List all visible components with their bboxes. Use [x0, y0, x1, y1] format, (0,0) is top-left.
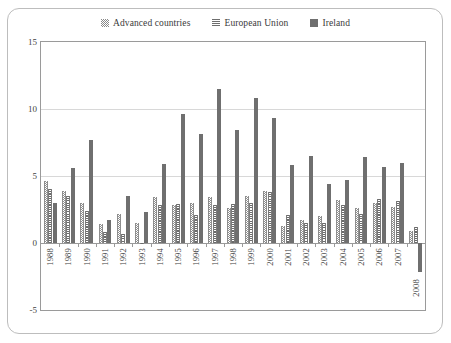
x-tick-mark-1988	[59, 243, 60, 247]
legend-item-european-union: European Union	[212, 18, 288, 28]
checkered-swatch-icon	[101, 19, 109, 27]
x-tick-mark-1999	[260, 243, 261, 247]
bar-ireland-2000	[272, 118, 276, 243]
bar-advanced-countries-1992	[117, 214, 121, 243]
bar-advanced-countries-2006	[373, 203, 377, 243]
bar-group-1989	[62, 42, 75, 310]
x-tick-label-1993: 1993	[137, 248, 147, 266]
bar-ireland-1995	[181, 114, 185, 243]
x-tick-label-2006: 2006	[374, 248, 384, 266]
legend-item-advanced-countries: Advanced countries	[101, 18, 191, 28]
x-tick-mark-1996	[206, 243, 207, 247]
bar-ireland-1997	[217, 89, 221, 243]
bar-european-union-2002	[304, 223, 308, 243]
x-tick-label-2004: 2004	[338, 248, 348, 266]
x-tick-mark-2006	[388, 243, 389, 247]
bar-european-union-1997	[213, 205, 217, 243]
x-tick-label-2000: 2000	[265, 248, 275, 266]
bar-advanced-countries-2008	[409, 231, 413, 243]
bar-european-union-1989	[66, 196, 70, 243]
bar-group-1999	[245, 42, 258, 310]
bar-group-1995	[172, 42, 185, 310]
x-tick-label-1995: 1995	[173, 248, 183, 266]
bar-ireland-1988	[53, 203, 57, 243]
x-tick-mark-2007	[407, 243, 408, 247]
chart-legend: Advanced countries European Union Irelan…	[0, 18, 451, 28]
bar-group-2004	[336, 42, 349, 310]
bar-european-union-2008	[414, 227, 418, 243]
bars-layer	[41, 42, 425, 310]
bar-advanced-countries-2004	[336, 200, 340, 243]
bar-ireland-1990	[89, 140, 93, 243]
bar-group-1993	[135, 42, 148, 310]
bar-ireland-2001	[290, 165, 294, 243]
bar-group-1991	[99, 42, 112, 310]
bar-ireland-1994	[162, 164, 166, 243]
bar-ireland-1993	[144, 212, 148, 243]
bar-advanced-countries-1999	[245, 196, 249, 243]
x-tick-label-1997: 1997	[210, 248, 220, 266]
bar-advanced-countries-1990	[80, 203, 84, 243]
x-tick-mark-1998	[242, 243, 243, 247]
bar-advanced-countries-1988	[44, 181, 48, 243]
x-tick-mark-2008	[425, 243, 426, 247]
bar-group-1992	[117, 42, 130, 310]
y-tick-label-0: 0	[9, 238, 37, 248]
bar-ireland-2008	[418, 243, 422, 272]
bar-ireland-2005	[363, 157, 367, 243]
x-tick-mark-2005	[370, 243, 371, 247]
bar-european-union-2007	[396, 201, 400, 243]
bar-advanced-countries-1995	[172, 205, 176, 243]
x-tick-label-2008: 2008	[411, 279, 421, 297]
bar-european-union-1991	[103, 232, 107, 243]
bar-advanced-countries-1993	[135, 223, 139, 243]
bar-group-1994	[153, 42, 166, 310]
bar-ireland-2003	[327, 184, 331, 243]
legend-item-ireland: Ireland	[310, 18, 350, 28]
striped-swatch-icon	[212, 19, 220, 27]
bar-ireland-1992	[126, 196, 130, 243]
bar-advanced-countries-1994	[153, 197, 157, 243]
bar-advanced-countries-2005	[355, 208, 359, 243]
bar-ireland-1989	[71, 168, 75, 243]
y-tick-label-5: 5	[9, 171, 37, 181]
legend-label-advanced-countries: Advanced countries	[113, 18, 191, 28]
x-tick-label-1988: 1988	[45, 248, 55, 266]
x-tick-label-1990: 1990	[82, 248, 92, 266]
bar-european-union-1988	[48, 189, 52, 243]
bar-advanced-countries-2007	[391, 207, 395, 243]
bar-european-union-1996	[194, 215, 198, 243]
bar-group-2008	[409, 42, 422, 310]
x-tick-mark-2003	[334, 243, 335, 247]
bar-ireland-1998	[235, 130, 239, 243]
x-tick-mark-1994	[169, 243, 170, 247]
x-tick-mark-1993	[151, 243, 152, 247]
bar-group-2007	[391, 42, 404, 310]
x-tick-label-2007: 2007	[393, 248, 403, 266]
bar-european-union-1992	[121, 234, 125, 243]
x-tick-mark-2002	[315, 243, 316, 247]
bar-european-union-1995	[176, 204, 180, 243]
bar-group-1996	[190, 42, 203, 310]
bar-advanced-countries-2001	[281, 226, 285, 243]
bar-group-1988	[44, 42, 57, 310]
bar-group-2005	[355, 42, 368, 310]
x-tick-label-1992: 1992	[118, 248, 128, 266]
solid-swatch-icon	[310, 19, 318, 27]
legend-label-ireland: Ireland	[322, 18, 350, 28]
bar-european-union-2004	[341, 205, 345, 243]
bar-european-union-2001	[286, 215, 290, 243]
bar-group-1990	[80, 42, 93, 310]
bar-group-2000	[263, 42, 276, 310]
bar-european-union-2006	[377, 199, 381, 243]
x-tick-mark-2000	[279, 243, 280, 247]
bar-advanced-countries-1991	[99, 224, 103, 243]
bar-ireland-2002	[309, 156, 313, 243]
chart-figure: Advanced countries European Union Irelan…	[0, 0, 451, 343]
y-tick-label-10: 10	[9, 104, 37, 114]
x-tick-label-1994: 1994	[155, 248, 165, 266]
x-tick-mark-1995	[187, 243, 188, 247]
bar-ireland-2006	[382, 167, 386, 243]
x-tick-label-2003: 2003	[319, 248, 329, 266]
bar-ireland-1996	[199, 134, 203, 243]
